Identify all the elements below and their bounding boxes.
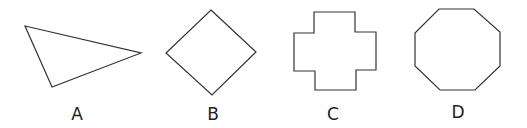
diamond-shape xyxy=(166,10,256,95)
label-a: A xyxy=(71,106,83,123)
label-c: C xyxy=(327,106,339,123)
shapes-figure: A B C D xyxy=(0,0,527,128)
octagon-shape xyxy=(415,9,500,90)
label-b: B xyxy=(207,106,219,123)
triangle-shape xyxy=(25,26,141,87)
cross-shape xyxy=(294,12,376,90)
label-d: D xyxy=(451,104,464,121)
